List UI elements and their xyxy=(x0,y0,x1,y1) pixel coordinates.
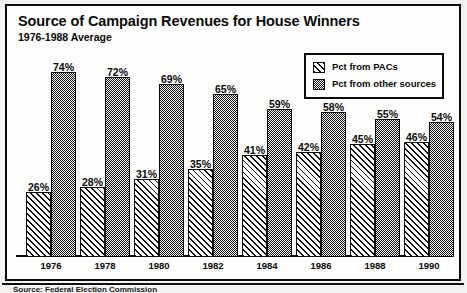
bar-value-label: 46% xyxy=(406,132,427,143)
bar-pac: 26% xyxy=(26,192,51,257)
bar-pac: 45% xyxy=(350,144,375,257)
bar-value-label: 54% xyxy=(431,112,452,123)
bar-pac: 41% xyxy=(242,155,267,257)
bar-group: 28% 72% 1978 xyxy=(80,57,130,257)
bar-group: 45% 55% 1988 xyxy=(350,57,400,257)
bar-value-label: 72% xyxy=(107,67,128,78)
bar-other: 59% xyxy=(267,109,292,257)
plot-area: 26% 74% 1976 28% 72% 1978 31% xyxy=(16,36,454,279)
bar-other: 58% xyxy=(321,112,346,257)
x-tick-label: 1976 xyxy=(40,261,61,271)
bar-other: 69% xyxy=(159,84,184,257)
chart-frame: Source of Campaign Revenues for House Wi… xyxy=(5,4,461,281)
bar-other: 54% xyxy=(429,122,454,257)
bar-pac: 35% xyxy=(188,169,213,257)
bar-group: 31% 69% 1980 xyxy=(134,57,184,257)
bar-pac: 42% xyxy=(296,152,321,257)
bar-group: 41% 59% 1984 xyxy=(242,57,292,257)
source-note: Source: Federal Election Commission xyxy=(13,285,313,293)
bar-value-label: 26% xyxy=(28,182,49,193)
bar-value-label: 45% xyxy=(352,134,373,145)
bar-value-label: 42% xyxy=(298,142,319,153)
x-tick-label: 1984 xyxy=(256,261,277,271)
bar-value-label: 41% xyxy=(244,145,265,156)
bar-pac: 28% xyxy=(80,187,105,257)
bar-other: 65% xyxy=(213,94,238,257)
bar-value-label: 59% xyxy=(269,99,290,110)
x-tick-label: 1978 xyxy=(94,261,115,271)
chart-title: Source of Campaign Revenues for House Wi… xyxy=(18,13,360,29)
bar-group: 42% 58% 1986 xyxy=(296,57,346,257)
bar-group: 46% 54% 1990 xyxy=(404,57,454,257)
bar-value-label: 31% xyxy=(136,169,157,180)
bar-pac: 31% xyxy=(134,179,159,257)
bar-other: 72% xyxy=(105,77,130,257)
x-tick-label: 1980 xyxy=(148,261,169,271)
x-tick-label: 1990 xyxy=(418,261,439,271)
bar-other: 55% xyxy=(375,119,400,257)
bar-value-label: 69% xyxy=(161,74,182,85)
x-tick-label: 1986 xyxy=(310,261,331,271)
bar-value-label: 28% xyxy=(82,177,103,188)
bar-value-label: 55% xyxy=(377,109,398,120)
bar-pac: 46% xyxy=(404,142,429,257)
x-tick-label: 1982 xyxy=(202,261,223,271)
x-tick-label: 1988 xyxy=(364,261,385,271)
bar-value-label: 35% xyxy=(190,159,211,170)
bar-group: 26% 74% 1976 xyxy=(26,57,76,257)
bar-value-label: 74% xyxy=(53,62,74,73)
bar-value-label: 65% xyxy=(215,84,236,95)
bar-value-label: 58% xyxy=(323,102,344,113)
bar-group: 35% 65% 1982 xyxy=(188,57,238,257)
scanned-page: Source of Campaign Revenues for House Wi… xyxy=(0,0,467,293)
bar-other: 74% xyxy=(51,72,76,257)
